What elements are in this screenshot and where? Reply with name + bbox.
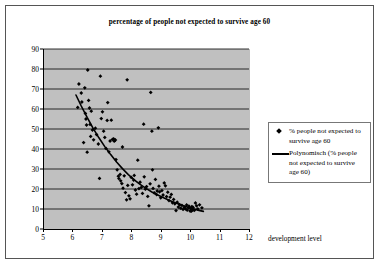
y-tick-mark <box>40 49 43 50</box>
scatter-point <box>125 198 129 202</box>
scatter-point <box>79 91 83 95</box>
scatter-point <box>154 178 158 182</box>
scatter-point <box>85 150 89 154</box>
x-tick-label: 12 <box>245 233 253 242</box>
y-tick-label: 70 <box>32 85 40 94</box>
trendline-path <box>76 95 203 211</box>
scatter-point <box>92 138 96 142</box>
scatter-point <box>106 101 110 105</box>
scatter-point <box>135 192 139 196</box>
scatter-point <box>141 192 145 196</box>
scatter-point <box>103 136 107 140</box>
x-tick-mark <box>43 229 44 232</box>
scatter-point <box>99 117 103 121</box>
scatter-point <box>150 129 154 133</box>
scatter-point <box>148 182 152 186</box>
plot-svg <box>43 49 249 229</box>
x-axis-label: development level <box>268 234 322 243</box>
legend-label-scatter: % people not expected to survive age 60 <box>289 127 366 146</box>
y-tick-mark <box>40 189 43 190</box>
scatter-point <box>89 135 93 139</box>
scatter-point <box>98 74 102 78</box>
y-tick-mark <box>40 149 43 150</box>
scatter-point <box>151 168 155 172</box>
x-tick-mark <box>190 229 191 232</box>
scatter-point <box>121 145 125 149</box>
x-tick-label: 10 <box>186 233 194 242</box>
scatter-point <box>126 184 130 188</box>
scatter-point <box>125 78 129 82</box>
y-tick-label: 0 <box>35 225 39 234</box>
x-tick-label: 9 <box>159 233 163 242</box>
x-tick-label: 7 <box>100 233 104 242</box>
scatter-point <box>121 186 125 190</box>
legend-item-trendline: Polynomisch (% people not expected to su… <box>272 149 366 178</box>
line-marker-icon <box>272 149 289 158</box>
scatter-point <box>157 184 161 188</box>
y-tick-label: 10 <box>32 205 40 214</box>
scatter-point <box>101 110 105 114</box>
legend-label-trendline: Polynomisch (% people not expected to su… <box>289 149 366 178</box>
scatter-point <box>98 177 102 181</box>
scatter-point <box>89 109 93 113</box>
scatter-point <box>102 129 106 133</box>
y-tick-mark <box>40 129 43 130</box>
x-tick-label: 8 <box>129 233 133 242</box>
scatter-point <box>146 195 150 199</box>
y-tick-label: 80 <box>32 65 40 74</box>
scatter-point <box>149 91 153 95</box>
x-tick-label: 11 <box>216 233 223 242</box>
y-tick-mark <box>40 69 43 70</box>
scatter-point <box>142 175 146 179</box>
y-tick-label: 30 <box>32 165 40 174</box>
chart-frame: percentage of people not expected to sur… <box>5 5 374 259</box>
scatter-point <box>109 118 113 122</box>
scatter-point <box>114 158 118 162</box>
y-tick-mark <box>40 169 43 170</box>
y-tick-mark <box>40 209 43 210</box>
scatter-point <box>122 174 126 178</box>
scatter-point <box>166 190 170 194</box>
gridlines <box>43 49 249 209</box>
scatter-point <box>132 174 136 178</box>
chart-title: percentage of people not expected to sur… <box>6 18 373 26</box>
trendline <box>76 95 203 211</box>
diamond-marker-icon <box>272 127 289 136</box>
scatter-point <box>105 119 109 123</box>
scatter-point <box>85 123 89 127</box>
scatter-point <box>96 142 100 146</box>
x-tick-label: 5 <box>41 233 45 242</box>
plot-wrapper: 0102030405060708090 56789101112 <box>43 49 249 229</box>
x-tick-mark <box>161 229 162 232</box>
scatter-point <box>124 191 128 195</box>
y-tick-label: 60 <box>32 105 40 114</box>
scatter-point <box>131 183 135 187</box>
y-tick-label: 20 <box>32 185 40 194</box>
scatter-point <box>198 203 202 207</box>
x-tick-mark <box>102 229 103 232</box>
chart-legend: % people not expected to survive age 60 … <box>268 122 371 183</box>
x-tick-mark <box>249 229 250 232</box>
scatter-point <box>151 187 155 191</box>
y-tick-label: 40 <box>32 145 40 154</box>
scatter-point <box>147 204 151 208</box>
scatter-point <box>136 158 140 162</box>
x-tick-mark <box>220 229 221 232</box>
y-tick-mark <box>40 89 43 90</box>
y-tick-label: 50 <box>32 125 40 134</box>
y-tick-label: 90 <box>32 45 40 54</box>
x-tick-mark <box>72 229 73 232</box>
scatter-point <box>87 99 91 103</box>
x-tick-label: 6 <box>71 233 75 242</box>
scatter-point <box>142 122 146 126</box>
x-tick-mark <box>131 229 132 232</box>
legend-item-scatter: % people not expected to survive age 60 <box>272 127 366 146</box>
scatter-point <box>82 141 86 145</box>
scatter-point <box>115 168 119 172</box>
y-tick-mark <box>40 109 43 110</box>
scatter-point <box>77 82 81 86</box>
scatter-points <box>76 68 204 213</box>
